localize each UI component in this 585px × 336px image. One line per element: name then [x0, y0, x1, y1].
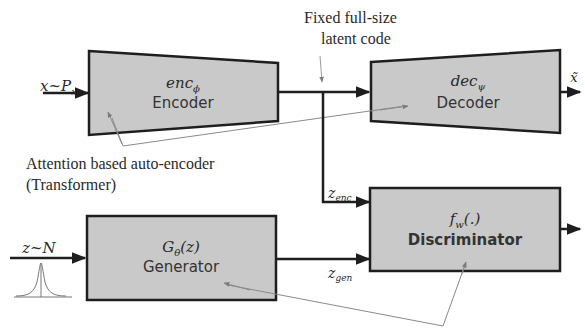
output-x-label: x̃ [570, 70, 578, 85]
decoder-block: decψ Decoder [371, 50, 560, 133]
encoder-block: encϕ Encoder [89, 51, 278, 135]
autoencoder-label-line2: (Transformer) [26, 176, 116, 194]
discriminator-block: fw(.) Discriminator [370, 188, 560, 271]
gaussian-distribution-icon [14, 263, 72, 297]
discriminator-symbol: fw(.) [449, 210, 481, 230]
generator-symbol: Gθ(z) [162, 238, 200, 258]
architecture-diagram: Fixed full-size latent code x~Px encϕ En… [0, 0, 585, 336]
autoencoder-label-line1: Attention based auto-encoder [26, 155, 215, 172]
z-gen-label: zgen [327, 265, 352, 283]
discriminator-name: Discriminator [408, 231, 523, 249]
z-enc-label: zenc [327, 185, 352, 203]
input-z-label: z~N [21, 239, 56, 257]
generator-name: Generator [143, 258, 220, 276]
generator-block: Gθ(z) Generator [87, 216, 276, 300]
decoder-name: Decoder [436, 94, 500, 112]
latent-code-label-line1: Fixed full-size [304, 9, 397, 26]
latent-code-label-line2: latent code [321, 30, 391, 47]
latent-code-pointer [320, 56, 322, 82]
encoder-name: Encoder [152, 94, 214, 112]
